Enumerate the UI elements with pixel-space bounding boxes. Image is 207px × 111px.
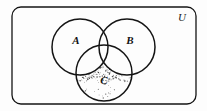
- venn-diagram-figure: A B C U: [0, 0, 207, 111]
- set-b-label: B: [125, 34, 133, 46]
- universal-set-label: U: [178, 11, 187, 23]
- figure-background: [0, 0, 207, 111]
- set-c-label: C: [100, 74, 108, 86]
- set-a-label: A: [71, 34, 79, 46]
- venn-diagram-canvas: A B C U: [0, 0, 207, 111]
